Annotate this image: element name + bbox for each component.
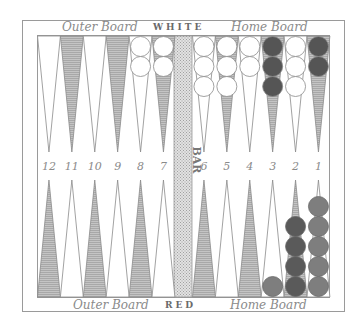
- white-checker[interactable]: [240, 37, 260, 57]
- dark-checker[interactable]: [263, 57, 283, 77]
- label-top-outer-board: Outer Board: [62, 20, 138, 34]
- label-bottom-home-board: Home Board: [229, 298, 307, 312]
- point-number: 6: [200, 160, 207, 173]
- white-checker[interactable]: [286, 37, 306, 57]
- dark-checker[interactable]: [308, 57, 328, 77]
- red-checker[interactable]: [308, 197, 328, 217]
- white-checker[interactable]: [286, 77, 306, 97]
- point-number: 1: [315, 160, 322, 173]
- white-checker[interactable]: [194, 77, 214, 97]
- point-number: 8: [137, 160, 144, 173]
- dark-checker[interactable]: [308, 37, 328, 57]
- white-checker[interactable]: [131, 37, 151, 57]
- point-number: 11: [65, 160, 79, 173]
- point-number: 2: [291, 160, 299, 173]
- red-checker[interactable]: [263, 277, 283, 297]
- red-checker[interactable]: [308, 237, 328, 257]
- dark-checker[interactable]: [263, 37, 283, 57]
- red-checker[interactable]: [286, 277, 306, 297]
- point-number: 12: [42, 160, 56, 173]
- point-number: 4: [245, 160, 253, 173]
- dark-checker[interactable]: [263, 77, 283, 97]
- bar[interactable]: [174, 36, 192, 297]
- point-number: 5: [223, 160, 230, 173]
- label-bottom-outer-board: Outer Board: [73, 298, 149, 312]
- label-red: RED: [165, 300, 196, 310]
- point-number: 10: [88, 160, 102, 173]
- backgammon-board: Outer Board WHITE Home Board Outer Board…: [0, 0, 363, 328]
- white-checker[interactable]: [217, 57, 237, 77]
- white-checker[interactable]: [131, 57, 151, 77]
- white-checker[interactable]: [194, 57, 214, 77]
- label-white: WHITE: [152, 22, 204, 32]
- white-checker[interactable]: [153, 57, 173, 77]
- red-checker[interactable]: [286, 257, 306, 277]
- label-top-home-board: Home Board: [230, 20, 308, 34]
- white-checker[interactable]: [194, 37, 214, 57]
- white-checker[interactable]: [153, 37, 173, 57]
- white-checker[interactable]: [286, 57, 306, 77]
- white-checker[interactable]: [217, 37, 237, 57]
- red-checker[interactable]: [286, 237, 306, 257]
- red-checker[interactable]: [308, 257, 328, 277]
- red-checker[interactable]: [308, 217, 328, 237]
- point-number: 3: [269, 160, 276, 173]
- red-checker[interactable]: [308, 277, 328, 297]
- red-checker[interactable]: [286, 217, 306, 237]
- point-number: 7: [160, 160, 167, 173]
- point-number: 9: [114, 160, 121, 173]
- white-checker[interactable]: [217, 77, 237, 97]
- white-checker[interactable]: [240, 57, 260, 77]
